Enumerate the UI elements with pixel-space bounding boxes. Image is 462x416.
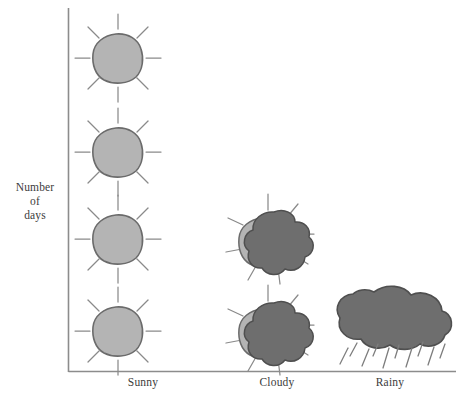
chart-canvas <box>0 0 462 416</box>
sun-icon <box>75 14 161 102</box>
sun-icon <box>75 195 161 283</box>
pictogram-column-sunny <box>75 14 161 375</box>
pictogram-column-rainy <box>337 286 451 368</box>
sun-behind-cloud-icon <box>226 194 314 284</box>
sun-icon <box>75 108 161 196</box>
sun-behind-cloud-icon <box>226 285 314 375</box>
sun-icon <box>75 287 161 375</box>
rain-cloud-icon <box>337 286 451 368</box>
pictograph-chart: Number of days Sunny Cloudy Rainy <box>0 0 462 416</box>
pictogram-column-cloudy <box>226 194 314 375</box>
